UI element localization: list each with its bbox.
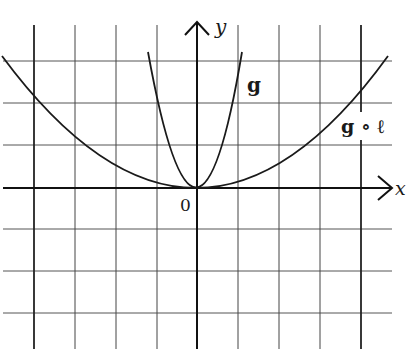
curve-g-compose-l (2, 56, 388, 188)
curve-g-label: g (247, 73, 261, 97)
curve-g-compose-l-label: g ∘ ℓ (341, 115, 385, 137)
function-graph: y x 0 g g ∘ ℓ (0, 0, 409, 349)
x-axis-label: x (395, 177, 406, 199)
curve-g (148, 52, 242, 188)
y-axis (185, 22, 209, 349)
y-axis-label: y (214, 15, 227, 39)
origin-label: 0 (180, 195, 191, 215)
